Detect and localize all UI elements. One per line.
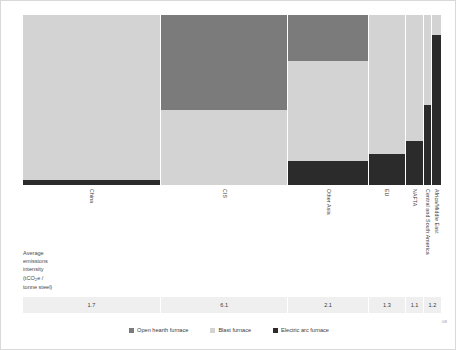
- legend-label: Blast furnace: [218, 327, 251, 333]
- category-label-other-asia: Other Asia: [288, 187, 368, 259]
- segment-eaf[interactable]: [424, 105, 431, 185]
- category-label-line: Other Asia: [326, 189, 332, 215]
- segment-bf[interactable]: [288, 61, 367, 161]
- segment-eaf[interactable]: [288, 161, 367, 185]
- emissions-value-cell: 1.7: [23, 297, 161, 313]
- category-label-africa-middle-east: Africa/Middle East: [432, 187, 441, 259]
- segment-eaf[interactable]: [369, 154, 406, 185]
- caption-unit-pre: (tCO: [23, 275, 35, 281]
- legend-swatch-bf: [210, 328, 215, 333]
- caption-line-5: tonne steel): [23, 283, 103, 291]
- category-label-cis: CIS: [161, 187, 288, 259]
- emissions-value-strip: 1.76.12.11.31.11.2: [23, 297, 441, 313]
- category-label-line: NAFTA: [412, 189, 418, 206]
- category-label-nafta: NAFTA: [406, 187, 424, 259]
- figure-number: 08: [442, 319, 447, 324]
- legend-label: Electric arc furnace: [281, 327, 329, 333]
- caption-unit-subscript: 2: [35, 277, 37, 282]
- emissions-value-cell: 1.3: [369, 297, 407, 313]
- legend-item-bf[interactable]: Blast furnace: [210, 327, 251, 333]
- legend-item-eaf[interactable]: Electric arc furnace: [273, 327, 329, 333]
- caption-line-1: Average: [23, 249, 103, 257]
- category-label-eu: EU: [369, 187, 407, 259]
- emissions-value-cell: 1.2: [424, 297, 441, 313]
- segment-bf[interactable]: [406, 15, 423, 141]
- caption-line-4: (tCO2e /: [23, 274, 103, 283]
- segment-eaf[interactable]: [406, 141, 423, 185]
- legend-label: Open hearth furnace: [137, 327, 188, 333]
- segment-bf[interactable]: [369, 15, 406, 154]
- chart-frame: ChinaCISOther AsiaEUNAFTACentral and Sou…: [0, 0, 456, 350]
- segment-ohf[interactable]: [288, 15, 367, 61]
- segment-bf[interactable]: [432, 15, 441, 35]
- segment-ohf[interactable]: [161, 15, 287, 110]
- column-china[interactable]: [23, 15, 161, 185]
- segment-bf[interactable]: [161, 110, 287, 185]
- caption-line-3: intensity: [23, 265, 103, 273]
- category-label-line: China: [89, 189, 95, 203]
- category-label-line: Central and South America: [425, 189, 431, 255]
- segment-eaf[interactable]: [23, 180, 160, 185]
- legend-swatch-eaf: [273, 328, 278, 333]
- marimekko-plot: [23, 15, 441, 185]
- segment-bf[interactable]: [424, 15, 431, 105]
- legend-item-ohf[interactable]: Open hearth furnace: [129, 327, 188, 333]
- category-label-central-and-south-america: Central and South America: [424, 187, 432, 259]
- column-nafta[interactable]: [406, 15, 424, 185]
- column-central-and-south-america[interactable]: [424, 15, 432, 185]
- column-eu[interactable]: [369, 15, 407, 185]
- chart-legend: Open hearth furnaceBlast furnaceElectric…: [1, 327, 456, 333]
- axis-caption: Average emissions intensity (tCO2e / ton…: [23, 249, 103, 291]
- column-africa-middle-east[interactable]: [432, 15, 441, 185]
- emissions-value-cell: 2.1: [288, 297, 368, 313]
- column-cis[interactable]: [161, 15, 288, 185]
- caption-line-2: emissions: [23, 257, 103, 265]
- category-label-line: Africa/Middle East: [434, 189, 440, 234]
- column-other-asia[interactable]: [288, 15, 368, 185]
- segment-bf[interactable]: [23, 15, 160, 180]
- category-label-line: EU: [384, 189, 390, 197]
- segment-eaf[interactable]: [432, 35, 441, 185]
- category-label-line: CIS: [222, 189, 228, 198]
- caption-unit-post: e /: [37, 275, 43, 281]
- emissions-value-cell: 6.1: [161, 297, 288, 313]
- legend-swatch-ohf: [129, 328, 134, 333]
- emissions-value-cell: 1.1: [406, 297, 424, 313]
